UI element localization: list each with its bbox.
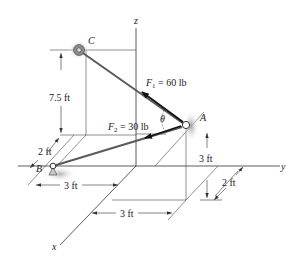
x-axis-label: x	[51, 241, 57, 252]
dim-b-offset-x: 2 ft	[38, 146, 52, 157]
force-f2-label: F2 = 30 lb	[107, 121, 149, 134]
point-b-label: B	[36, 163, 42, 174]
point-a-joint	[182, 121, 189, 128]
dim-a-offset-x: 2 ft	[222, 177, 236, 188]
y-axis-label: y	[280, 161, 286, 172]
point-a-label: A	[199, 112, 207, 123]
theta-label: θ	[160, 113, 165, 124]
dim-a-height: 3 ft	[199, 153, 213, 164]
dimension-lines	[30, 53, 243, 213]
force-f1-label: F1 = 60 lb	[145, 77, 187, 90]
z-axis-label: z	[133, 15, 138, 26]
dim-c-height: 7.5 ft	[49, 92, 70, 103]
dim-b-offset-y: 3 ft	[64, 180, 78, 191]
point-c-joint	[74, 45, 85, 56]
statics-diagram: z y x C A B F1 = 60 lb F2 = 30 lb θ 7.5 …	[0, 0, 286, 261]
point-c-label: C	[88, 35, 95, 46]
dim-a-offset-y: 3 ft	[120, 208, 134, 219]
